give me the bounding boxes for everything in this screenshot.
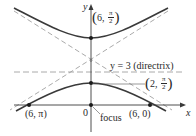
focus-label: focus (100, 113, 122, 123)
y-axis-label: y (83, 2, 87, 12)
lower-vertex-label: ( 2, π 2 ) (145, 76, 173, 91)
left-intercept-label: (6, π) (25, 109, 47, 119)
fraction: π 2 (108, 10, 114, 25)
left-intercept-point (27, 103, 31, 107)
right-intercept-point (148, 103, 152, 107)
lower-vertex-point (89, 81, 93, 85)
center-mark (90, 60, 92, 62)
origin-label: 0 (83, 108, 88, 118)
upper-vertex-point (89, 36, 93, 40)
directrix-label: y = 3 (directrix) (110, 61, 174, 71)
x-axis-label: x (186, 108, 190, 118)
focus-point (89, 103, 93, 107)
fraction: π 2 (161, 76, 167, 91)
focus-leader (93, 107, 100, 114)
upper-vertex-label: ( 6, π 2 ) (92, 10, 120, 25)
right-intercept-label: (6, 0) (129, 109, 151, 119)
